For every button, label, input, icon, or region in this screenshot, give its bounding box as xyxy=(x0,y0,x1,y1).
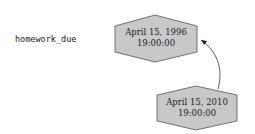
node-new-date: April 15, 2010 xyxy=(157,97,237,108)
node-old-label: April 15, 1996 19:00:00 xyxy=(116,27,196,49)
node-new-label: April 15, 2010 19:00:00 xyxy=(157,97,237,119)
variable-name-label: homework_due xyxy=(15,34,76,44)
diagram-canvas: homework_due April 15, 1996 19:00:00 Apr… xyxy=(0,0,255,134)
node-old-time: 19:00:00 xyxy=(116,38,196,49)
edge-arrow xyxy=(201,40,220,89)
node-new-time: 19:00:00 xyxy=(157,108,237,119)
node-old-date: April 15, 1996 xyxy=(116,27,196,38)
